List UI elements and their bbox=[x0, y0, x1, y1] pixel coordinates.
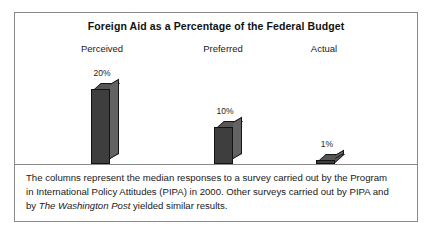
category-label-actual: Actual bbox=[289, 43, 359, 54]
figure-caption: The columns represent the median respons… bbox=[26, 171, 406, 214]
bar-front-face bbox=[91, 89, 110, 164]
category-label-perceived: Perceived bbox=[62, 43, 142, 54]
bar-perceived bbox=[91, 89, 110, 164]
caption-publication-name: The Washington Post bbox=[39, 200, 131, 211]
caption-divider bbox=[15, 164, 417, 165]
bar-preferred bbox=[214, 127, 233, 164]
bar-side-face bbox=[233, 117, 242, 159]
bar-side-face bbox=[110, 79, 119, 159]
value-label-actual: 1% bbox=[302, 139, 352, 149]
value-label-perceived: 20% bbox=[77, 68, 127, 78]
caption-line-2: in International Policy Attitudes (PIPA)… bbox=[26, 185, 406, 199]
caption-line-3-prefix: by bbox=[26, 200, 39, 211]
chart-area: Foreign Aid as a Percentage of the Feder… bbox=[15, 13, 417, 164]
caption-line-3-suffix: yielded similar results. bbox=[130, 200, 227, 211]
caption-line-1: The columns represent the median respons… bbox=[26, 171, 406, 185]
bar-front-face bbox=[214, 127, 233, 164]
figure-frame: Foreign Aid as a Percentage of the Feder… bbox=[14, 12, 418, 222]
chart-title: Foreign Aid as a Percentage of the Feder… bbox=[15, 20, 417, 32]
caption-line-3: by The Washington Post yielded similar r… bbox=[26, 199, 406, 213]
value-label-preferred: 10% bbox=[200, 106, 250, 116]
category-label-preferred: Preferred bbox=[183, 43, 263, 54]
